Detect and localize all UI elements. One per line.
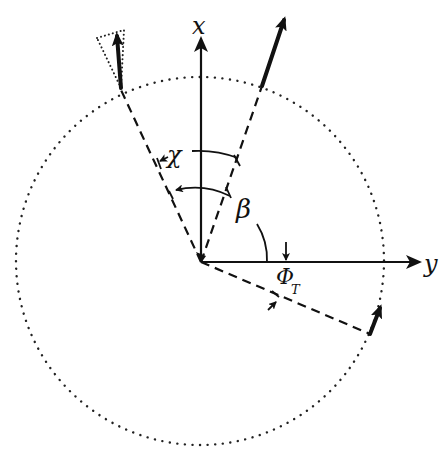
angle-arc-between-lines bbox=[176, 188, 230, 196]
chi-label: χ bbox=[165, 141, 183, 169]
chi-left-tick bbox=[157, 158, 161, 169]
phi-t-subscript: T bbox=[291, 282, 301, 297]
beta-arc bbox=[257, 224, 267, 262]
y-axis-label: y bbox=[423, 250, 438, 278]
vector-lower-right bbox=[370, 308, 380, 334]
phi-t-bottom-arrow bbox=[268, 302, 276, 310]
diagram-figure: x y χ β Φ T bbox=[0, 0, 445, 452]
chi-arc bbox=[192, 151, 238, 158]
vector-upper-right bbox=[262, 20, 284, 86]
x-axis-label: x bbox=[192, 12, 206, 40]
lower-arc-right-tick bbox=[226, 187, 231, 198]
lower-arc-left-tick bbox=[169, 191, 173, 199]
beta-label: β bbox=[235, 194, 251, 224]
diagram-canvas: x y χ β Φ T bbox=[0, 0, 445, 452]
dashed-line-upper-right bbox=[201, 86, 262, 262]
dashed-line-upper-left bbox=[121, 90, 201, 262]
